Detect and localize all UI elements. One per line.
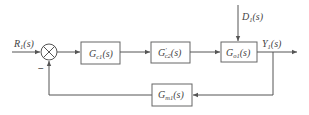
block-process-go1: Go1(s) xyxy=(221,42,257,62)
summing-junction: − xyxy=(38,44,57,74)
svg-text:G′c2(s): G′c2(s) xyxy=(158,46,182,59)
disturbance-label: D1(s) xyxy=(241,11,264,23)
input-signal: R1(s) xyxy=(12,38,40,52)
block-diagram: R1(s) − Gc1(s) G′c2(s) Go1(s) D1(s) Y1(s… xyxy=(0,0,309,115)
output-label: Y1(s) xyxy=(262,38,282,50)
disturbance-signal: D1(s) xyxy=(238,5,264,41)
block-measurement-gm1: Gm1(s) xyxy=(152,84,192,106)
output-signal: Y1(s) xyxy=(257,38,297,52)
minus-sign: − xyxy=(38,63,44,74)
block-controller-gc2-prime: G′c2(s) xyxy=(151,42,190,63)
input-label: R1(s) xyxy=(13,38,35,50)
block-controller-gc1: Gc1(s) xyxy=(81,42,120,64)
